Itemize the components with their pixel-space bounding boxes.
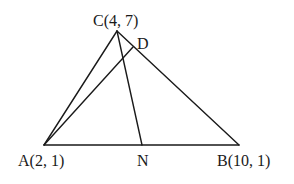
label-n: N	[137, 152, 149, 169]
segment-cb	[117, 31, 239, 145]
label-a: A(2, 1)	[18, 152, 64, 170]
label-c: C(4, 7)	[93, 12, 138, 30]
label-b: B(10, 1)	[217, 152, 270, 170]
segment-ad	[44, 47, 133, 145]
label-d: D	[137, 35, 149, 52]
triangle-diagram: C(4, 7) D A(2, 1) N B(10, 1)	[0, 0, 294, 184]
segment-ac	[44, 31, 117, 145]
